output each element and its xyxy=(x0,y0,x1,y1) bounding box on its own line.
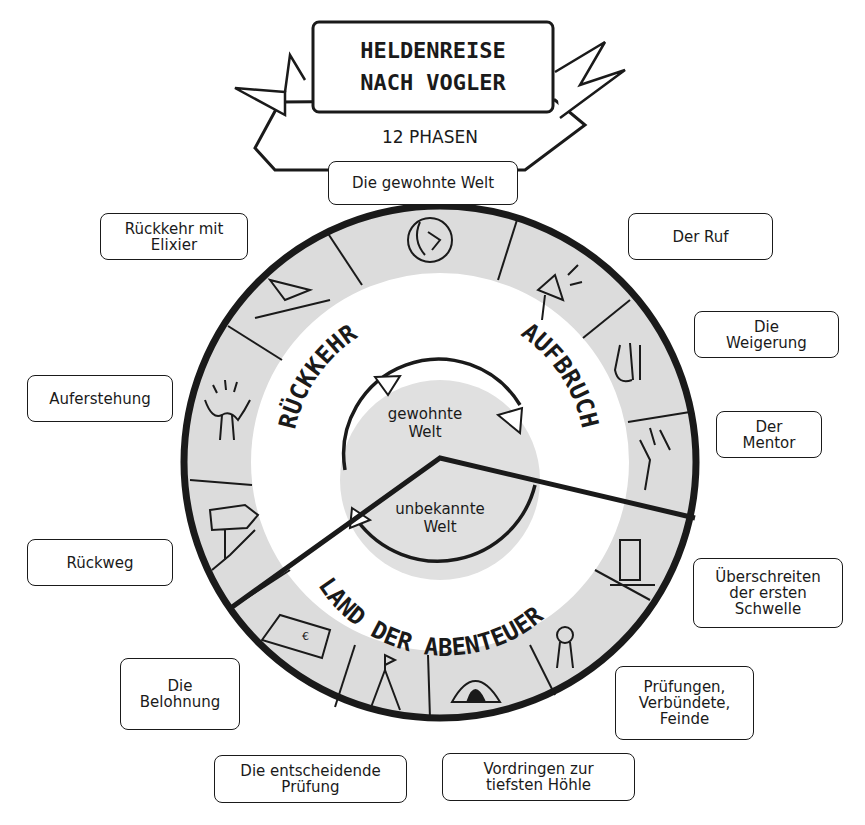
unknown-world-label: unbekannte Welt xyxy=(385,500,495,536)
svg-text:€: € xyxy=(302,630,309,643)
phase-6-label: Prüfungen, Verbündete, Feinde xyxy=(615,666,754,740)
subtitle: 12 PHASEN xyxy=(340,127,520,147)
phase-9-label: Die Belohnung xyxy=(120,658,240,730)
phase-4-label: Der Mentor xyxy=(716,411,822,458)
phase-1-label: Die gewohnte Welt xyxy=(328,161,518,205)
title-line-1: HELDENREISE xyxy=(313,38,553,63)
phase-10-label: Rückweg xyxy=(27,539,173,586)
phase-12-label: Rückkehr mit Elixier xyxy=(100,213,248,260)
known-world-label: gewohnte Welt xyxy=(370,405,480,441)
phase-3-label: Die Weigerung xyxy=(694,311,839,358)
phase-11-label: Auferstehung xyxy=(27,375,173,422)
phase-2-label: Der Ruf xyxy=(628,213,773,260)
phase-8-label: Die entscheidende Prüfung xyxy=(214,755,407,803)
phase-5-label: Überschreiten der ersten Schwelle xyxy=(693,558,843,628)
title-line-2: NACH VOGLER xyxy=(313,70,553,95)
phase-7-label: Vordringen zur tiefsten Höhle xyxy=(442,753,635,801)
hero-journey-diagram: € RÜCKKEHR AUFBRUCH LAND DER ABENT xyxy=(0,0,865,825)
